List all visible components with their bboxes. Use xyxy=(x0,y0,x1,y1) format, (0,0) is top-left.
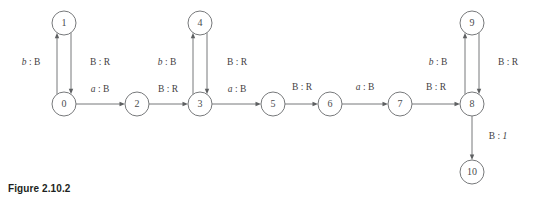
edge-label-e3-4: b : B xyxy=(158,57,176,67)
edge-arrowhead xyxy=(256,102,262,106)
edge-label-e4-3: B : R xyxy=(227,57,248,67)
edge-e1-0 xyxy=(69,33,73,95)
edge-e8-10 xyxy=(470,116,474,160)
edge-e0-2 xyxy=(76,102,125,106)
edge-arrowhead xyxy=(470,155,474,161)
state-node-10[interactable]: 10 xyxy=(460,160,484,184)
state-label: 4 xyxy=(198,17,203,28)
edge-label-e3-5: a : B xyxy=(228,84,246,94)
edge-e3-5 xyxy=(212,102,261,106)
state-diagram: 012345678910 b : BB : Ra : BB : Rb : BB … xyxy=(0,0,540,206)
edge-label-e7-8: B : R xyxy=(426,82,447,92)
edge-arrowhead xyxy=(120,102,126,106)
state-node-3[interactable]: 3 xyxy=(188,92,212,116)
state-label: 8 xyxy=(470,98,475,109)
edge-e9-8 xyxy=(477,33,481,95)
edge-e6-7 xyxy=(342,102,388,106)
edge-label-e1-0: B : R xyxy=(90,57,111,67)
edge-e5-6 xyxy=(285,102,318,106)
figure-caption: Figure 2.10.2 xyxy=(8,183,70,194)
edge-e0-1 xyxy=(55,33,59,95)
edge-e2-3 xyxy=(149,102,188,106)
state-node-5[interactable]: 5 xyxy=(261,92,285,116)
edge-label-e0-2: a : B xyxy=(91,84,109,94)
state-label: 1 xyxy=(62,17,67,28)
state-node-1[interactable]: 1 xyxy=(52,11,76,35)
edge-e3-4 xyxy=(191,33,195,95)
state-node-8[interactable]: 8 xyxy=(460,92,484,116)
state-label: 0 xyxy=(62,98,67,109)
state-node-7[interactable]: 7 xyxy=(388,92,412,116)
state-label: 7 xyxy=(398,98,403,109)
state-label: 3 xyxy=(198,98,203,109)
state-node-4[interactable]: 4 xyxy=(188,11,212,35)
state-label: 10 xyxy=(467,166,477,177)
edge-label-e2-3: B : R xyxy=(158,84,179,94)
state-node-9[interactable]: 9 xyxy=(460,11,484,35)
edge-label-e0-1: b : B xyxy=(22,57,40,67)
state-node-2[interactable]: 2 xyxy=(125,92,149,116)
state-label: 2 xyxy=(135,98,140,109)
edge-arrowhead xyxy=(313,102,319,106)
edge-arrowhead xyxy=(383,102,389,106)
edge-e7-8 xyxy=(412,102,460,106)
state-node-0[interactable]: 0 xyxy=(52,92,76,116)
state-label: 6 xyxy=(328,98,333,109)
state-label: 5 xyxy=(271,98,276,109)
figure-container: 012345678910 b : BB : Ra : BB : Rb : BB … xyxy=(0,0,540,206)
state-label: 9 xyxy=(470,17,475,28)
edge-label-e8-9: b : B xyxy=(429,57,447,67)
edge-arrowhead xyxy=(455,102,461,106)
edge-e4-3 xyxy=(205,33,209,95)
edge-label-e6-7: a : B xyxy=(356,82,374,92)
edge-arrowhead xyxy=(183,102,189,106)
nodes-layer: 012345678910 xyxy=(52,11,484,184)
edge-label-e9-8: B : R xyxy=(498,57,519,67)
edge-label-e8-10: B : 1 xyxy=(489,131,507,141)
edge-label-e5-6: B : R xyxy=(292,82,313,92)
state-node-6[interactable]: 6 xyxy=(318,92,342,116)
edge-e8-9 xyxy=(463,33,467,95)
